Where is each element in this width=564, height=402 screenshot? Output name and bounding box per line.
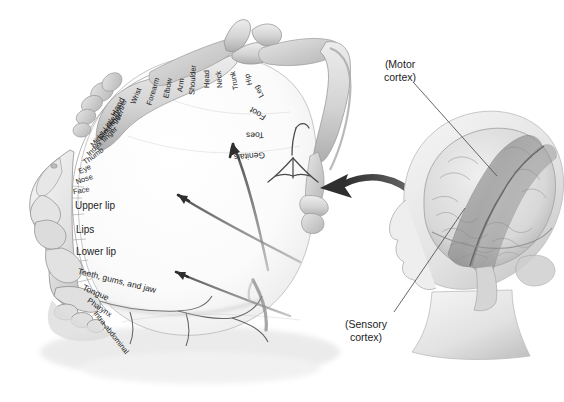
sensory-cortex-callout: (Sensory cortex) (345, 318, 387, 344)
sensory-cortex-line1: (Sensory (345, 318, 387, 331)
motor-cortex-line2: cortex) (384, 71, 416, 84)
motor-cortex-line1: (Motor (384, 58, 416, 71)
magnify-arrow (320, 174, 418, 198)
sensory-cortex-line2: cortex) (345, 331, 387, 344)
anatomy-artwork (0, 0, 564, 402)
motor-cortex-callout: (Motor cortex) (384, 58, 416, 84)
head-with-brain (389, 111, 563, 359)
figure-canvas: HandWristForearmElbowArmShoulderHeadNeck… (0, 0, 564, 402)
